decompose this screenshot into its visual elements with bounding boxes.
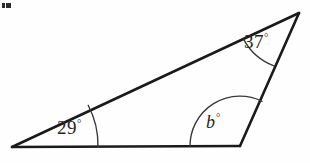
degree-symbol-bottom-left: ° [77, 117, 82, 129]
figure-canvas: 29° 37° b° [0, 0, 310, 163]
angle-value-top-right: 37 [244, 31, 264, 52]
angle-label-bottom-left: 29° [57, 118, 82, 137]
angle-label-bottom-right: b° [206, 112, 220, 131]
triangle-side-base [12, 146, 240, 147]
angle-label-top-right: 37° [244, 32, 269, 51]
triangle-figure [0, 0, 310, 163]
degree-symbol-top-right: ° [264, 31, 269, 43]
degree-symbol-bottom-right: ° [215, 111, 220, 123]
angle-value-bottom-left: 29 [57, 117, 77, 138]
angle-value-bottom-right: b [206, 112, 215, 132]
